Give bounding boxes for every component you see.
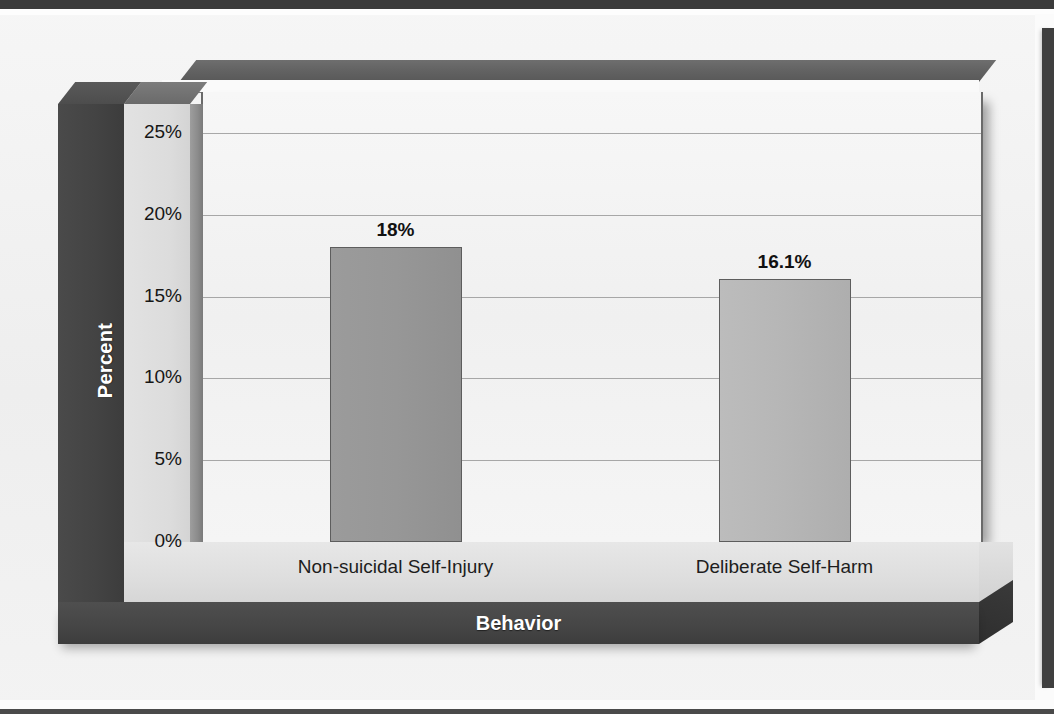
- y-axis-tick-label: 0%: [124, 530, 182, 552]
- scanned-page: Percent Behavior 0%5%10%15%20%25%18%Non-…: [0, 0, 1054, 714]
- y-axis-title: Percent: [94, 306, 117, 416]
- gridline: [203, 297, 981, 298]
- bar-value-label: 18%: [306, 219, 486, 241]
- x-axis-tick-label: Deliberate Self-Harm: [625, 556, 945, 578]
- bar: [330, 247, 462, 542]
- y-axis-title-block: Percent: [58, 104, 124, 634]
- y-axis-block-front: [124, 104, 190, 574]
- y-axis-tick-label: 15%: [124, 285, 182, 307]
- x-axis-tick-label: Non-suicidal Self-Injury: [236, 556, 556, 578]
- bar-value-label: 16.1%: [695, 251, 875, 273]
- bar-chart: Percent Behavior 0%5%10%15%20%25%18%Non-…: [38, 52, 998, 652]
- x-axis-title: Behavior: [58, 612, 979, 635]
- plot-back-wall-top: [179, 60, 996, 82]
- bar: [719, 279, 851, 542]
- page-top-margin: [0, 9, 1054, 15]
- gridline: [203, 215, 981, 216]
- page-top-ink-edge: [0, 0, 1054, 9]
- page-bottom-margin: [0, 700, 1054, 709]
- plot-area: [201, 92, 983, 544]
- page-right-ink-edge: [1042, 28, 1054, 688]
- y-axis-tick-label: 10%: [124, 366, 182, 388]
- gridline: [203, 133, 981, 134]
- gridline: [203, 460, 981, 461]
- y-axis-tick-label: 25%: [124, 121, 182, 143]
- y-axis-tick-label: 5%: [124, 448, 182, 470]
- page-bottom-ink-edge: [0, 709, 1054, 714]
- gridline: [203, 378, 981, 379]
- y-axis-block-side: [190, 104, 203, 574]
- y-axis-tick-label: 20%: [124, 203, 182, 225]
